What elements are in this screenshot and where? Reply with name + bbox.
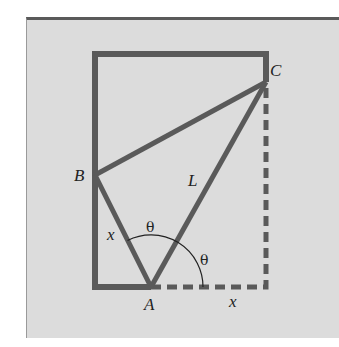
label-theta-right: θ — [200, 252, 208, 268]
label-x-side: x — [106, 225, 115, 244]
label-x-bottom: x — [228, 292, 237, 311]
label-A: A — [143, 295, 155, 314]
segment-AB — [95, 175, 151, 287]
label-theta-top: θ — [146, 219, 154, 235]
label-C: C — [270, 61, 282, 80]
label-L: L — [187, 171, 197, 190]
geometry-diagram: C B A L x x θ θ — [0, 0, 339, 347]
rectangle-solid-edges — [95, 54, 266, 287]
label-B: B — [74, 166, 85, 185]
